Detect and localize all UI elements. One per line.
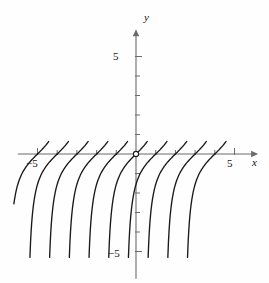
solution-curve-branch-9-upper: [195, 142, 206, 155]
solution-curve-branch-1-upper: [38, 142, 49, 155]
y-axis-label: y: [144, 12, 149, 23]
y-tick-label-minus5: −5: [108, 248, 120, 259]
solution-curve-branch-2-upper: [57, 142, 68, 155]
x-tick-label-5: 5: [227, 158, 233, 169]
x-axis-label: x: [252, 157, 257, 168]
solution-curve-branch-3-upper: [77, 142, 88, 155]
x-tick-label-minus5: −5: [26, 158, 38, 169]
origin-marker: [133, 151, 138, 156]
solution-curve-branch-8-upper: [175, 142, 186, 155]
origin-open-circle: [133, 151, 138, 156]
y-tick-label-5: 5: [113, 51, 119, 62]
figure-container: y x −5 5 5 −5: [0, 0, 269, 283]
y-axis-arrowhead: [133, 29, 139, 36]
plot-canvas: [0, 0, 269, 283]
solution-curve-branch-5-upper: [116, 142, 127, 155]
solution-curve-branch-7-upper: [156, 142, 167, 155]
solution-curves-group: [14, 142, 226, 258]
solution-curve-branch-10-upper: [215, 142, 226, 155]
solution-curve-branch-10-lower: [188, 154, 215, 257]
solution-curve-branch-4-upper: [97, 142, 108, 155]
